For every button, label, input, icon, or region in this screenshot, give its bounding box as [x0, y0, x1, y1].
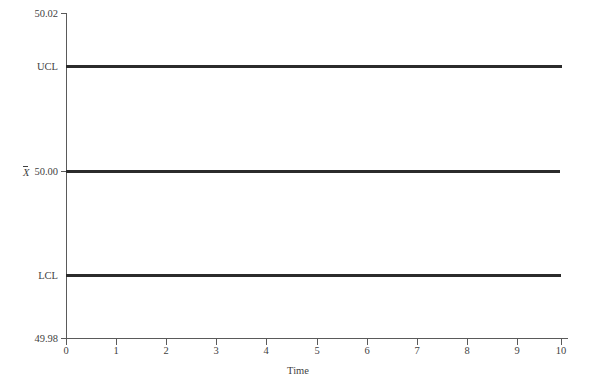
x-axis-label-8: 8	[454, 345, 480, 357]
x-axis-label-6: 6	[354, 345, 380, 357]
x-axis-label-9: 9	[504, 345, 530, 357]
y-axis-line	[66, 13, 67, 339]
x-axis-label-10: 10	[548, 345, 574, 357]
y-axis-label-bottom: 49.98	[8, 333, 58, 344]
x-axis-label-1: 1	[103, 345, 129, 357]
center-line-value: 50.00	[34, 166, 58, 177]
center-line-label: X 50.00	[8, 165, 58, 178]
ucl-line	[66, 65, 562, 68]
x-axis-title: Time	[0, 365, 596, 377]
control-chart: 50.02 49.98 X 50.00 UCL LCL 0 1 2 3 4 5 …	[0, 0, 596, 381]
x-axis-label-4: 4	[253, 345, 279, 357]
lcl-line	[66, 274, 561, 277]
x-bar-symbol: X	[23, 166, 29, 178]
ucl-label: UCL	[8, 61, 58, 72]
y-axis-label-top: 50.02	[8, 8, 58, 19]
center-line	[66, 170, 560, 173]
x-axis-label-2: 2	[153, 345, 179, 357]
x-axis-label-7: 7	[404, 345, 430, 357]
x-axis-label-0: 0	[53, 345, 79, 357]
lcl-label: LCL	[8, 270, 58, 281]
y-tick-50-02	[61, 13, 67, 14]
x-axis-label-5: 5	[304, 345, 330, 357]
x-axis-label-3: 3	[203, 345, 229, 357]
